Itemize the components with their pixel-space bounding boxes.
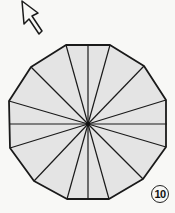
step-number-badge: 10 [151, 185, 169, 203]
folding-diagram [0, 0, 175, 213]
center-point [86, 122, 90, 126]
arrow-pointer-icon [22, 1, 42, 34]
